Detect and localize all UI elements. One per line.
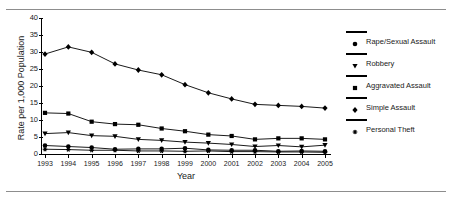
asterisk-marker [43,147,48,151]
series-line [45,133,325,147]
y-tick-label: 0 [34,150,38,158]
legend-item[interactable]: Personal Theft [345,117,450,139]
legend-item[interactable]: Simple Assault [345,95,450,117]
asterisk-marker [353,130,358,134]
square-marker [206,133,210,137]
chart-legend: Rape/Sexual AssaultRobberyAggravated Ass… [345,29,450,139]
x-tick-label: 1996 [107,160,123,167]
y-tick-label: 10 [30,116,38,124]
square-marker [90,120,94,124]
figure-page: Rate per 1,000 Population 05101520253035… [0,0,452,201]
diamond-marker [229,96,234,102]
x-tick-label: 2003 [271,160,287,167]
x-tick-label: 1999 [177,160,193,167]
top-divider-rule [6,9,446,10]
plot-area: 0510152025303540 19931994199519961997199… [41,18,331,154]
legend-sample-line [346,53,367,55]
circle-marker [183,146,188,151]
y-tick-label: 15 [30,99,38,107]
triangle-down-marker [349,58,361,70]
y-tick-label: 30 [30,48,38,56]
x-tick-label: 1994 [61,160,77,167]
legend-label: Rape/Sexual Assault [366,37,435,46]
series-aggravated-assault [43,111,327,142]
legend-label: Robbery [366,59,394,68]
legend-item[interactable]: Rape/Sexual Assault [345,29,450,51]
y-tick-label: 25 [30,65,38,73]
y-tick-label: 40 [30,14,38,22]
series-line [45,47,325,108]
asterisk-marker [349,124,361,136]
legend-sample-line [346,31,367,33]
square-marker [253,137,257,141]
square-marker [160,126,164,130]
diamond-marker [322,105,327,111]
legend-sample-line [346,75,367,77]
legend-label: Personal Theft [366,125,415,134]
cut-off-title [0,0,452,7]
diamond-marker [42,51,47,57]
x-tick-label: 2004 [294,160,310,167]
diamond-marker [159,72,164,78]
x-tick-label: 2001 [224,160,240,167]
legend-item[interactable]: Aggravated Assault [345,73,450,95]
x-tick-label: 1995 [84,160,100,167]
diamond-marker [112,61,117,67]
diamond-marker [182,82,187,88]
x-axis-title: Year [41,171,331,181]
diamond-marker [352,107,357,113]
legend-sample-line [346,97,367,99]
square-marker [43,111,47,115]
circle-marker [349,36,361,48]
square-marker [113,122,117,126]
bottom-divider-rule [6,191,446,192]
legend-item[interactable]: Robbery [345,51,450,73]
square-marker [230,134,234,138]
diamond-marker [89,49,94,55]
square-marker [276,136,280,140]
y-tick-label: 35 [30,31,38,39]
square-marker [66,111,70,115]
x-tick-label: 1993 [37,160,53,167]
x-tick-label: 1997 [131,160,147,167]
series-simple-assault [42,44,327,111]
x-tick-label: 2002 [247,160,263,167]
diamond-marker [349,102,361,114]
legend-label: Aggravated Assault [366,81,431,90]
square-marker [300,136,304,140]
diamond-marker [252,101,257,107]
x-tick-label: 2005 [317,160,333,167]
y-tick-label: 20 [30,82,38,90]
y-axis-title: Rate per 1,000 Population [16,18,26,158]
square-marker [183,129,187,133]
y-tick-label: 5 [34,133,38,141]
diamond-marker [66,44,71,50]
x-tick-label: 1998 [154,160,170,167]
circle-marker [353,42,358,47]
legend-sample-line [346,119,367,121]
triangle-down-marker [352,64,357,69]
line-chart: Rate per 1,000 Population 05101520253035… [0,11,452,189]
diamond-marker [299,104,304,110]
x-tick-label: 2000 [201,160,217,167]
diamond-marker [136,67,141,73]
legend-label: Simple Assault [366,103,415,112]
square-marker [353,86,357,90]
square-marker [349,80,361,92]
square-marker [323,137,327,141]
series-layer [41,18,331,155]
square-marker [136,123,140,127]
circle-marker [43,143,48,148]
diamond-marker [276,102,281,108]
diamond-marker [206,90,211,96]
circle-marker [66,144,71,149]
